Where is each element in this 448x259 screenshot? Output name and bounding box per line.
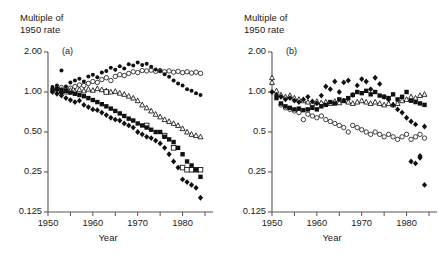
data-point-filled-diamond xyxy=(305,94,310,100)
data-point-filled-diamond xyxy=(149,135,154,141)
data-point-open-triangle xyxy=(422,92,427,97)
data-point-filled-diamond xyxy=(189,182,194,188)
data-point-filled-diamond xyxy=(135,129,140,135)
data-point-filled-circle xyxy=(59,69,63,73)
data-point-filled-diamond xyxy=(104,112,109,118)
data-point-filled-circle xyxy=(59,87,63,91)
data-point-filled-square xyxy=(400,95,404,99)
data-point-filled-circle xyxy=(136,60,140,64)
data-point-filled-circle xyxy=(140,63,144,67)
data-point-filled-circle xyxy=(145,62,149,66)
data-point-open-circle xyxy=(100,77,104,81)
data-point-open-circle xyxy=(373,130,377,134)
ytick-label: 0.125 xyxy=(224,206,266,216)
data-point-open-triangle xyxy=(95,86,100,91)
data-point-filled-circle xyxy=(91,73,95,77)
data-point-filled-square xyxy=(324,103,328,107)
data-point-filled-circle xyxy=(68,80,72,84)
data-point-open-circle xyxy=(194,70,198,74)
data-point-filled-square xyxy=(140,123,144,127)
data-point-filled-square xyxy=(86,96,90,100)
ytick-label: 1.00 xyxy=(224,86,266,96)
data-point-open-triangle xyxy=(418,93,423,98)
data-point-open-circle xyxy=(310,114,314,118)
panel-b-xlabel: Year xyxy=(302,232,362,243)
data-point-filled-diamond xyxy=(63,95,68,101)
ytick-label: 0.5 xyxy=(224,126,266,136)
data-point-open-circle xyxy=(109,78,113,82)
data-point-filled-circle xyxy=(95,75,99,79)
data-point-filled-circle xyxy=(77,77,81,81)
data-point-filled-square xyxy=(395,97,399,101)
data-point-open-square xyxy=(171,146,176,151)
data-point-open-circle xyxy=(144,69,148,73)
data-point-filled-circle xyxy=(163,72,167,76)
data-point-filled-square xyxy=(82,94,86,98)
data-point-open-triangle xyxy=(81,88,86,93)
data-point-filled-square xyxy=(328,100,332,104)
data-point-filled-diamond xyxy=(162,145,167,151)
data-point-open-circle xyxy=(91,79,95,83)
data-point-filled-circle xyxy=(73,79,77,83)
data-point-open-triangle xyxy=(355,99,360,104)
data-point-filled-diamond xyxy=(328,86,333,92)
data-point-open-circle xyxy=(386,132,390,136)
data-point-filled-diamond xyxy=(180,176,185,182)
data-point-open-triangle xyxy=(368,101,373,106)
data-point-filled-diamond xyxy=(404,115,409,121)
data-point-filled-square xyxy=(306,107,310,111)
data-point-filled-square xyxy=(153,130,157,134)
data-point-open-square xyxy=(189,167,194,172)
data-point-filled-circle xyxy=(158,69,162,73)
data-point-open-triangle xyxy=(350,101,355,106)
data-point-filled-diamond xyxy=(373,75,378,81)
data-point-open-circle xyxy=(391,135,395,139)
data-point-filled-square xyxy=(73,92,77,96)
data-point-filled-diamond xyxy=(408,119,413,125)
data-point-filled-circle xyxy=(100,71,104,75)
data-point-filled-square xyxy=(377,93,381,97)
xtick-label: 1970 xyxy=(342,218,382,228)
xtick-label: 1960 xyxy=(73,218,113,228)
data-point-filled-diamond xyxy=(131,125,136,131)
data-point-filled-diamond xyxy=(193,185,198,191)
data-point-open-circle xyxy=(131,70,135,74)
data-point-filled-square xyxy=(315,107,319,111)
data-point-filled-square xyxy=(185,159,189,163)
data-point-filled-diamond xyxy=(364,79,369,85)
data-point-filled-diamond xyxy=(158,141,163,147)
data-point-filled-diamond xyxy=(117,118,122,124)
data-point-open-circle xyxy=(171,70,175,74)
data-point-filled-diamond xyxy=(108,115,113,121)
data-point-open-circle xyxy=(95,80,99,84)
data-point-filled-square xyxy=(391,92,395,96)
data-point-open-triangle xyxy=(117,90,122,95)
data-point-filled-diamond xyxy=(269,89,274,95)
data-point-open-circle xyxy=(324,117,328,121)
data-point-open-circle xyxy=(400,135,404,139)
data-point-open-circle xyxy=(189,71,193,75)
data-point-filled-square xyxy=(279,101,283,105)
data-point-filled-diamond xyxy=(359,76,364,82)
data-point-filled-diamond xyxy=(341,80,346,86)
data-point-filled-square xyxy=(104,104,108,108)
data-point-filled-circle xyxy=(118,64,122,68)
data-point-open-circle xyxy=(86,81,90,85)
data-point-open-triangle xyxy=(270,80,275,85)
data-point-open-circle xyxy=(319,114,323,118)
data-point-filled-diamond xyxy=(368,86,373,92)
data-point-filled-circle xyxy=(172,79,176,83)
data-point-filled-diamond xyxy=(122,121,127,127)
data-point-filled-square xyxy=(149,128,153,132)
data-point-filled-square xyxy=(158,130,162,134)
data-point-filled-square xyxy=(297,106,301,110)
data-point-open-triangle xyxy=(180,126,185,131)
data-point-open-triangle xyxy=(99,87,104,92)
data-point-open-triangle xyxy=(113,89,118,94)
data-point-open-triangle xyxy=(198,134,203,139)
data-point-filled-square xyxy=(162,135,166,139)
data-point-filled-circle xyxy=(154,67,158,71)
data-point-filled-square xyxy=(55,87,59,91)
data-point-filled-square xyxy=(189,163,193,167)
data-point-filled-diamond xyxy=(68,97,73,103)
